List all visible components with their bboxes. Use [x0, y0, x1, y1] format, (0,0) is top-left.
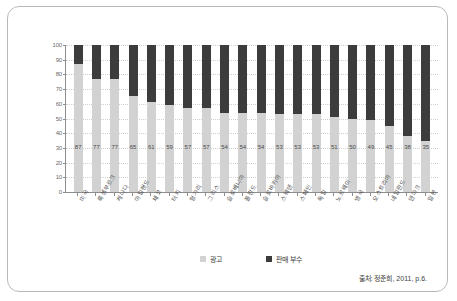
- bar-segment-sales: [421, 45, 430, 141]
- x-label-cell: 스페인: [288, 193, 306, 251]
- bar-stack: [202, 45, 211, 192]
- x-label-cell: 체코: [141, 193, 159, 251]
- x-axis-labels: 미국룩셈부르크캐나다아일랜드체코터키헝가리그리스슬로베니아폴란드슬로바키아스웨덴…: [65, 193, 437, 251]
- bar-value-label: 38: [404, 144, 411, 150]
- x-label-cell: 터키: [159, 193, 177, 251]
- y-tick-label: 30: [56, 145, 62, 151]
- legend-item[interactable]: 판매 부수: [266, 254, 302, 264]
- bar-column[interactable]: 53: [289, 45, 307, 192]
- x-label-cell: 덴마크: [397, 193, 415, 251]
- bar-value-label: 45: [386, 144, 393, 150]
- bar-segment-sales: [257, 45, 266, 113]
- bar-column[interactable]: 38: [398, 45, 416, 192]
- bar-stack: [366, 45, 375, 192]
- y-tick-label: 20: [56, 160, 62, 166]
- x-label-cell: 독일: [306, 193, 324, 251]
- legend-label: 판매 부수: [276, 254, 302, 264]
- bar-column[interactable]: 54: [234, 45, 252, 192]
- bar-column[interactable]: 65: [124, 45, 142, 192]
- bar-stack: [385, 45, 394, 192]
- bar-value-label: 87: [75, 144, 82, 150]
- bar-value-label: 53: [294, 144, 301, 150]
- bar-value-label: 54: [221, 144, 228, 150]
- y-tick-label: 50: [56, 116, 62, 122]
- bar-column[interactable]: 54: [215, 45, 233, 192]
- bar-value-label: 59: [166, 144, 173, 150]
- bar-column[interactable]: 54: [252, 45, 270, 192]
- x-label-cell: 슬로바키아: [251, 193, 269, 251]
- y-tick-label: 0: [59, 189, 62, 195]
- bar-column[interactable]: 53: [270, 45, 288, 192]
- y-tick-label: 100: [53, 42, 62, 48]
- bar-value-label: 77: [111, 144, 118, 150]
- bar-value-label: 35: [422, 144, 429, 150]
- legend-swatch-icon: [200, 256, 206, 262]
- y-tick-label: 80: [56, 71, 62, 77]
- bar-value-label: 57: [203, 144, 210, 150]
- bar-stack: [129, 45, 138, 192]
- bar-segment-sales: [403, 45, 412, 136]
- bar-segment-sales: [74, 45, 83, 64]
- x-label-cell: 아일랜드: [123, 193, 141, 251]
- bar-value-label: 53: [313, 144, 320, 150]
- bar-value-label: 54: [239, 144, 246, 150]
- bar-segment-sales: [293, 45, 302, 114]
- bar-segment-ads: [293, 114, 302, 192]
- bar-stack: [74, 45, 83, 192]
- x-label-cell: 룩셈부르크: [86, 193, 104, 251]
- bar-column[interactable]: 57: [197, 45, 215, 192]
- x-label-cell: 헝가리: [178, 193, 196, 251]
- x-label-cell: 폴란드: [233, 193, 251, 251]
- bar-value-label: 65: [130, 144, 137, 150]
- bar-value-label: 77: [93, 144, 100, 150]
- bar-stack: [275, 45, 284, 192]
- chart-frame: 0102030405060708090100 87777765615957575…: [7, 6, 448, 292]
- bar-series-container: 8777776561595757545454535353515049453835: [66, 45, 438, 192]
- bar-stack: [348, 45, 357, 192]
- bar-stack: [165, 45, 174, 192]
- legend-label: 광고: [210, 254, 222, 264]
- bar-segment-sales: [275, 45, 284, 114]
- bar-column[interactable]: 87: [69, 45, 87, 192]
- y-tick-label: 90: [56, 57, 62, 63]
- bar-segment-ads: [74, 64, 83, 192]
- bar-segment-sales: [92, 45, 101, 79]
- bar-segment-sales: [220, 45, 229, 113]
- bar-column[interactable]: 53: [307, 45, 325, 192]
- x-label-cell: 미국: [68, 193, 86, 251]
- bar-segment-ads: [92, 79, 101, 192]
- bar-column[interactable]: 49: [362, 45, 380, 192]
- bar-column[interactable]: 45: [380, 45, 398, 192]
- bar-stack: [110, 45, 119, 192]
- source-note: 출처: 정준희, 2011, p.6.: [359, 273, 427, 283]
- bar-stack: [293, 45, 302, 192]
- bar-column[interactable]: 77: [106, 45, 124, 192]
- bar-column[interactable]: 61: [142, 45, 160, 192]
- bar-value-label: 53: [276, 144, 283, 150]
- bar-segment-sales: [183, 45, 192, 108]
- bar-stack: [238, 45, 247, 192]
- bar-value-label: 50: [349, 144, 356, 150]
- bar-segment-sales: [238, 45, 247, 113]
- x-label-cell: 그리스: [196, 193, 214, 251]
- bar-column[interactable]: 77: [87, 45, 105, 192]
- plot-area: 0102030405060708090100 87777765615957575…: [65, 45, 438, 193]
- bar-segment-ads: [220, 113, 229, 192]
- x-label-cell: 슬로베니아: [214, 193, 232, 251]
- bar-stack: [312, 45, 321, 192]
- bar-segment-ads: [366, 120, 375, 192]
- bar-column[interactable]: 35: [417, 45, 435, 192]
- bar-segment-sales: [385, 45, 394, 126]
- bar-column[interactable]: 57: [179, 45, 197, 192]
- bar-column[interactable]: 59: [160, 45, 178, 192]
- bar-column[interactable]: 50: [343, 45, 361, 192]
- bar-segment-sales: [110, 45, 119, 79]
- legend-item[interactable]: 광고: [200, 254, 222, 264]
- bar-stack: [330, 45, 339, 192]
- bar-column[interactable]: 51: [325, 45, 343, 192]
- x-label-cell: 오스트리아: [361, 193, 379, 251]
- y-tick-label: 40: [56, 130, 62, 136]
- x-label-cell: 네덜란드: [379, 193, 397, 251]
- bar-segment-ads: [312, 114, 321, 192]
- bar-segment-sales: [312, 45, 321, 114]
